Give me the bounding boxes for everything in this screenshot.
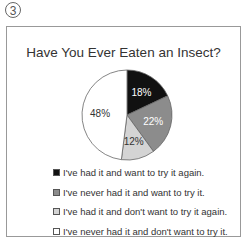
chart-legend: I've had it and want to try it again. I'…: [53, 163, 228, 241]
legend-swatch-dark-gray: [53, 189, 60, 196]
legend-swatch-white: [53, 228, 60, 235]
legend-label: I've never had it and don't want to try …: [63, 226, 228, 237]
legend-item: I've never had it and want to try it.: [53, 183, 228, 203]
pie-slice-label: 12%: [124, 136, 144, 147]
legend-label: I've had it and want to try it again.: [63, 167, 204, 178]
legend-item: I've had it and want to try it again.: [53, 163, 228, 183]
legend-label: I've had it and don't want to try it aga…: [63, 206, 227, 217]
legend-label: I've never had it and want to try it.: [63, 187, 205, 198]
figure-number-marker: 3: [5, 2, 21, 18]
pie-slice-label: 18%: [131, 87, 151, 98]
legend-item: I've never had it and don't want to try …: [53, 222, 228, 242]
legend-swatch-black: [53, 169, 60, 176]
legend-swatch-light-gray: [53, 208, 60, 215]
pie-chart: 18%22%12%48%: [79, 67, 175, 163]
pie-slice-label: 48%: [90, 108, 110, 119]
pie-slice-label: 22%: [143, 116, 163, 127]
chart-title: Have You Ever Eaten an Insect?: [7, 45, 240, 60]
legend-item: I've had it and don't want to try it aga…: [53, 202, 228, 222]
chart-frame: Have You Ever Eaten an Insect? 18%22%12%…: [6, 26, 241, 237]
